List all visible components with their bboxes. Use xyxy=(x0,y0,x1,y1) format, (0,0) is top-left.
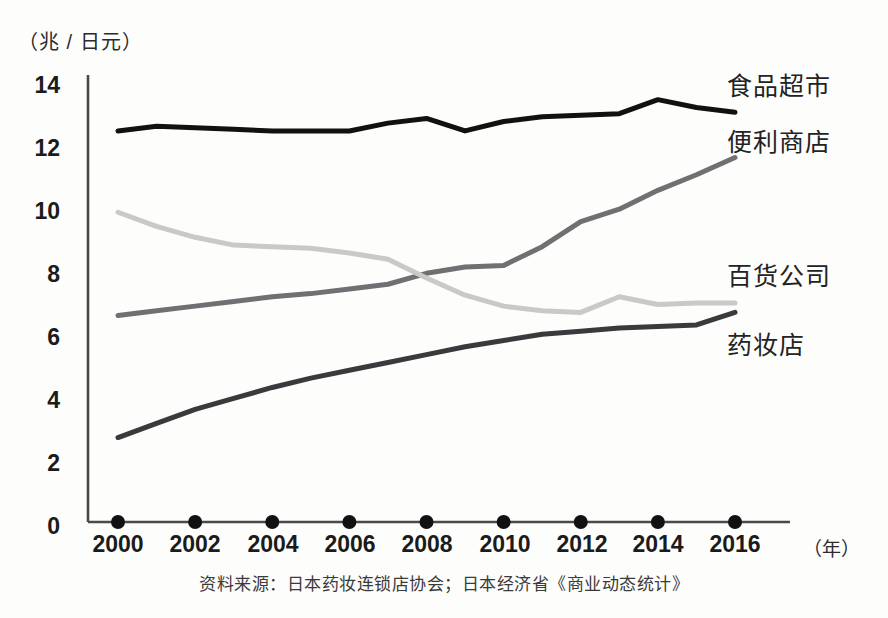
axis-dot-marker-2004 xyxy=(265,515,279,529)
axis-dot-marker-2014 xyxy=(651,515,665,529)
source-note: 资料来源：日本药妆连锁店协会；日本经济省《商业动态统计》 xyxy=(0,570,888,595)
series-label-supermarket: 食品超市 xyxy=(727,66,831,102)
series-line-3 xyxy=(118,312,735,437)
axis-dot-marker-2002 xyxy=(188,515,202,529)
chart-container: （兆 / 日元） 14 12 10 8 6 4 2 0 2000 2002 20… xyxy=(0,0,888,618)
series-line-1 xyxy=(118,158,735,316)
axis-dot-marker-2008 xyxy=(420,515,434,529)
axis-dot-marker-2010 xyxy=(497,515,511,529)
series-label-drugstore: 药妆店 xyxy=(727,325,805,361)
series-lines xyxy=(118,100,735,438)
axes xyxy=(88,75,790,522)
axis-dot-marker-2006 xyxy=(342,515,356,529)
axis-dot-marker-2016 xyxy=(728,515,742,529)
axis-dot-marker-2012 xyxy=(574,515,588,529)
series-line-0 xyxy=(118,100,735,131)
series-label-convenience-store: 便利商店 xyxy=(727,122,831,158)
series-line-2 xyxy=(118,212,735,312)
series-label-department-store: 百货公司 xyxy=(727,256,831,292)
axis-dot-marker-2000 xyxy=(111,515,125,529)
